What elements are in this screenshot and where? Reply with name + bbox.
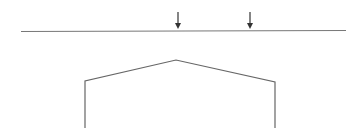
gable-frame [85,60,275,128]
beam-line [21,31,346,32]
load-arrow-icon [247,12,253,29]
load-arrow-icon [175,12,181,29]
diagram-canvas [0,0,364,136]
diagram-svg [0,0,364,136]
load-arrows [175,12,253,29]
